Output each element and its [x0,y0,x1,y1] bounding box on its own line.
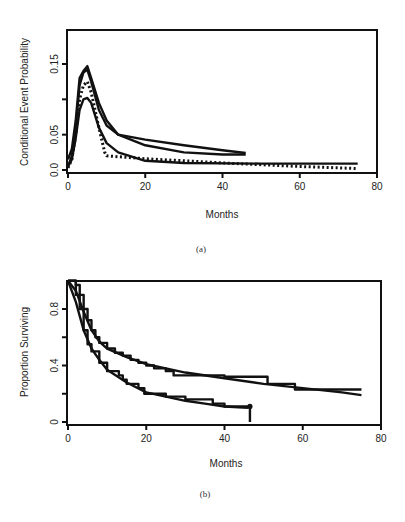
series-line-lower-km-step [68,281,250,422]
x-tick-label: 60 [297,433,309,444]
x-tick-label: 20 [140,181,152,192]
series-group-a [68,66,358,168]
series-group-b [68,281,361,422]
x-axis-title-a: Months [206,209,239,220]
x-axis-title-b: Months [210,458,243,469]
x-tick-label: 60 [294,181,306,192]
x-tick-label: 0 [65,433,71,444]
series-line-lower-fitted [68,281,248,408]
figure: 0.00.050.15 020406080 Months Conditional… [0,0,405,522]
x-axis-ticks-a: 020406080 [65,173,383,192]
x-axis-ticks-b: 020406080 [65,425,387,444]
series-line-solid-curve-2 [68,70,246,167]
y-axis-title-a: Conditional Event Probability [19,38,30,166]
y-tick-label: 0.05 [49,124,60,144]
y-tick-label: 0.0 [49,163,60,177]
panel-b-proportion-surviving: 00.40.8 020406080 Months Proportion Surv… [19,281,387,499]
y-axis-ticks-a: 0.00.050.15 [49,54,67,177]
plot-frame-a [67,30,377,173]
y-tick-label: 0.8 [49,302,60,316]
x-tick-label: 80 [371,181,383,192]
x-tick-label: 40 [219,433,231,444]
series-line-upper-fitted [68,281,361,395]
y-tick-label: 0 [49,419,60,425]
caption-a: (a) [196,244,206,254]
y-tick-label: 0.4 [49,358,60,372]
caption-b: (b) [200,489,211,499]
x-tick-label: 40 [217,181,229,192]
y-axis-title-b: Proportion Surviving [19,307,30,397]
x-tick-label: 80 [375,433,387,444]
x-tick-label: 20 [141,433,153,444]
x-tick-label: 0 [65,181,71,192]
censor-marker [247,404,252,409]
y-tick-label: 0.15 [49,54,60,74]
y-axis-ticks-b: 00.40.8 [49,302,67,425]
panel-a-conditional-event-probability: 0.00.050.15 020406080 Months Conditional… [19,30,383,254]
